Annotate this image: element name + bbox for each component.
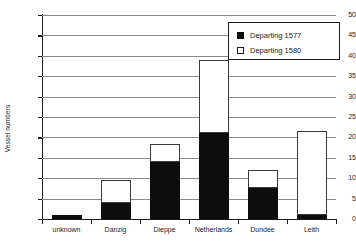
bar-group-danzig[interactable] <box>101 15 131 219</box>
chart-legend: Departing 1577 Departing 1580 <box>228 22 340 60</box>
bar-group-dieppe[interactable] <box>150 15 180 219</box>
legend-swatch-departing-1577 <box>237 32 244 39</box>
bar-segment-unknown-departing-1577[interactable] <box>52 215 82 219</box>
bar-segment-dundee-departing-1577[interactable] <box>248 188 278 219</box>
bar-segment-netherlands-departing-1577[interactable] <box>199 133 229 219</box>
bar-group-unknown[interactable] <box>52 15 82 219</box>
bar-segment-leith-departing-1580[interactable] <box>297 131 327 215</box>
bar-segment-dieppe-departing-1580[interactable] <box>150 144 180 162</box>
x-tick-mark-5 <box>287 219 288 224</box>
legend-item-departing-1580: Departing 1580 <box>237 44 301 56</box>
x-tick-label-leith: Leith <box>304 226 319 233</box>
x-tick-label-netherlands: Netherlands <box>195 226 233 233</box>
y-axis-title: Vessel numbers <box>0 95 14 165</box>
x-tick-mark-0 <box>42 219 43 224</box>
x-tick-label-danzig: Danzig <box>105 226 127 233</box>
y-axis-title-text: Vessel numbers <box>4 94 11 164</box>
legend-label-departing-1577: Departing 1577 <box>250 31 301 40</box>
bar-segment-netherlands-departing-1580[interactable] <box>199 60 229 133</box>
bar-segment-danzig-departing-1577[interactable] <box>101 203 131 219</box>
x-tick-label-dundee: Dundee <box>250 226 275 233</box>
x-tick-mark-4 <box>238 219 239 224</box>
bar-segment-dieppe-departing-1577[interactable] <box>150 162 180 219</box>
bar-segment-leith-departing-1577[interactable] <box>297 215 327 219</box>
bar-segment-dundee-departing-1580[interactable] <box>248 170 278 188</box>
x-tick-mark-2 <box>140 219 141 224</box>
legend-label-departing-1580: Departing 1580 <box>250 46 301 55</box>
x-tick-mark-1 <box>91 219 92 224</box>
x-tick-mark-3 <box>189 219 190 224</box>
legend-item-departing-1577: Departing 1577 <box>237 29 301 41</box>
bar-group-netherlands[interactable] <box>199 15 229 219</box>
x-tick-mark-end <box>336 219 337 224</box>
chart-container: Vessel numbers 05101520253035404550 unkn… <box>0 0 356 245</box>
legend-swatch-departing-1580 <box>237 47 244 54</box>
x-tick-label-unknown: unknown <box>52 226 80 233</box>
x-tick-label-dieppe: Dieppe <box>153 226 175 233</box>
bar-segment-danzig-departing-1580[interactable] <box>101 180 131 202</box>
